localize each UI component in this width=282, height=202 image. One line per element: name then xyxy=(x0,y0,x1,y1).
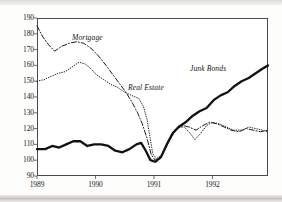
x-axis-ticks xyxy=(37,176,212,179)
series-paths xyxy=(37,26,268,162)
chart-page: 19018017016015014013012011010090 1989199… xyxy=(0,0,282,202)
series-line-junk-bonds xyxy=(37,65,268,161)
series-label-junk-bonds: Junk Bonds xyxy=(190,64,226,73)
chart-canvas xyxy=(0,0,282,202)
x-tick-label: 1991 xyxy=(137,180,171,189)
x-tick-label: 1990 xyxy=(78,180,112,189)
x-tick-label: 1992 xyxy=(195,180,229,189)
series-line-real-estate xyxy=(37,62,268,158)
series-line-mortgage xyxy=(37,26,268,160)
y-axis-ticks xyxy=(34,18,37,176)
series-label-mortgage: Mortgage xyxy=(72,33,103,42)
series-label-real-estate: Real Estate xyxy=(128,83,164,92)
x-tick-label: 1989 xyxy=(20,180,54,189)
